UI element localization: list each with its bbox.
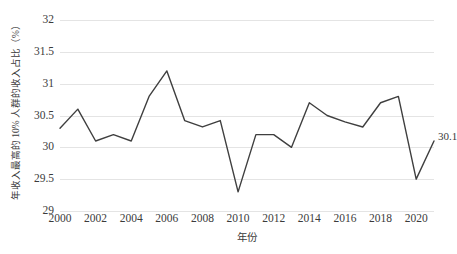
- x-axis-tick-label: 2020: [405, 213, 428, 225]
- y-axis-tick-label: 31.5: [22, 46, 54, 58]
- x-axis-tick-label: 2004: [120, 213, 143, 225]
- series-line: [60, 20, 434, 211]
- x-axis-tick-label: 2018: [369, 213, 392, 225]
- y-axis-tick-label: 30.5: [22, 110, 54, 122]
- x-axis-tick-label: 2002: [84, 213, 107, 225]
- end-point-data-label: 30.1: [438, 131, 457, 142]
- x-axis-tick-label: 2008: [191, 213, 214, 225]
- x-axis-tick-labels: 2000200220042006200820102012201420162018…: [60, 213, 434, 231]
- x-axis-title: 年份: [60, 233, 434, 244]
- x-axis-tick-label: 2010: [227, 213, 250, 225]
- x-axis-tick-label: 2012: [262, 213, 285, 225]
- y-axis-tick-label: 31: [22, 78, 54, 90]
- x-axis-tick-label: 2014: [298, 213, 321, 225]
- y-axis-tick-label: 32: [22, 14, 54, 26]
- x-axis-tick-label: 2000: [49, 213, 72, 225]
- plot-area: [60, 20, 434, 211]
- y-axis-tick-label: 29.5: [22, 173, 54, 185]
- x-axis-tick-label: 2016: [333, 213, 356, 225]
- y-axis-tick-label: 30: [22, 142, 54, 154]
- x-axis-tick-label: 2006: [155, 213, 178, 225]
